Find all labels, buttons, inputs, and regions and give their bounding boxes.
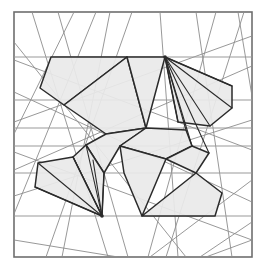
polygon-arrangement-figure — [0, 0, 269, 280]
apex-top-right — [163, 55, 167, 59]
figure-root — [0, 0, 269, 280]
apex-bottom-left — [100, 214, 104, 218]
